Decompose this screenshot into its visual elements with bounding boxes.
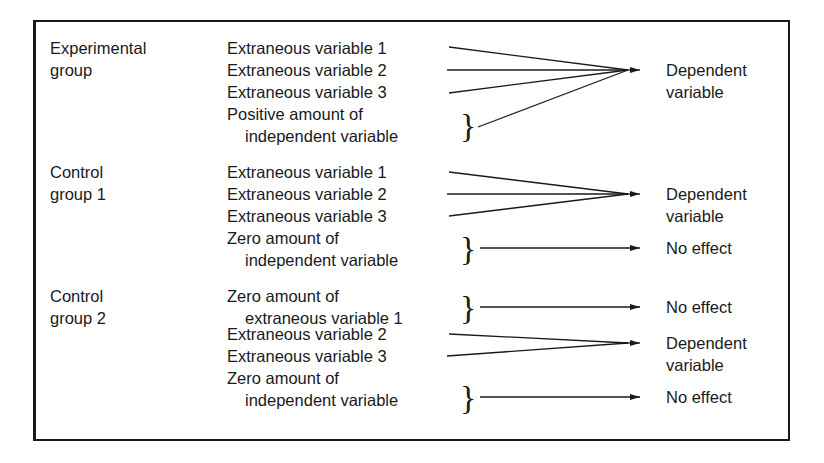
group-label: Experimental [50,37,146,59]
no-effect-label: No effect [666,386,732,408]
group-label: Control [50,285,103,307]
group-label: Control [50,161,103,183]
brace-icon: } [460,291,476,325]
extraneous-variable: Extraneous variable 3 [227,81,387,103]
group-label: group 1 [50,183,106,205]
group-label: group 2 [50,307,106,329]
independent-variable-amount: independent variable [245,249,398,271]
extraneous-variable: Extraneous variable 2 [227,59,387,81]
outcome-label: Dependent [666,332,747,354]
independent-variable-amount: Zero amount of [227,227,339,249]
outcome-label: variable [666,354,724,376]
outcome-label: variable [666,81,724,103]
extraneous-variable: Extraneous variable 3 [227,345,387,367]
group-label: group [50,59,92,81]
outcome-label: Dependent [666,183,747,205]
outcome-label: variable [666,205,724,227]
extraneous-variable: Extraneous variable 3 [227,205,387,227]
outcome-label: Dependent [666,59,747,81]
independent-variable-amount: Positive amount of [227,103,363,125]
extraneous-variable: Extraneous variable 1 [227,161,387,183]
extraneous-variable: Extraneous variable 1 [227,37,387,59]
extraneous-variable-amount: Zero amount of [227,285,339,307]
no-effect-label: No effect [666,237,732,259]
brace-icon: } [460,232,476,266]
no-effect-label: No effect [666,296,732,318]
independent-variable-amount: independent variable [245,389,398,411]
extraneous-variable: Extraneous variable 2 [227,323,387,345]
independent-variable-amount: independent variable [245,125,398,147]
brace-icon: } [460,381,476,415]
brace-icon: } [460,109,476,143]
extraneous-variable: Extraneous variable 2 [227,183,387,205]
independent-variable-amount: Zero amount of [227,367,339,389]
